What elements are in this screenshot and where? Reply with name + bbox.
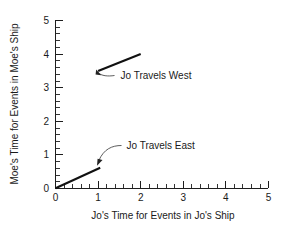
y-axis-major-ticks	[56, 21, 63, 189]
x-axis-major-ticks	[56, 181, 269, 188]
x-axis-minor-ticks	[64, 184, 260, 188]
x-tick-label-3: 3	[181, 192, 187, 203]
x-axis-title: Jo's Time for Events in Jo's Ship	[91, 210, 235, 221]
annotation-label-jo-travels-west: Jo Travels West	[121, 70, 192, 81]
chart-container: 0 1 2 3 4 5 0 1 2 3 4 5 Jo Travels West …	[0, 0, 287, 229]
x-tick-label-4: 4	[223, 192, 229, 203]
x-tick-label-1: 1	[95, 192, 101, 203]
x-tick-label-2: 2	[138, 192, 144, 203]
y-tick-label-0: 0	[43, 183, 49, 194]
chart-plot-area: 0 1 2 3 4 5 0 1 2 3 4 5 Jo Travels West …	[0, 0, 287, 229]
y-tick-label-3: 3	[43, 82, 49, 93]
data-line-jo-travels-west	[98, 54, 141, 71]
y-tick-label-1: 1	[43, 149, 49, 160]
y-axis-title: Moe's Time for Events in Moe's Ship	[9, 23, 20, 185]
x-tick-label-0: 0	[53, 192, 59, 203]
data-line-jo-travels-east	[56, 168, 101, 189]
annotation-arrow-jo-travels-east	[97, 146, 122, 166]
y-tick-label-5: 5	[43, 15, 49, 26]
y-axis-minor-ticks	[56, 27, 60, 182]
x-tick-label-5: 5	[266, 192, 272, 203]
y-tick-label-2: 2	[43, 116, 49, 127]
y-tick-label-4: 4	[43, 49, 49, 60]
annotation-label-jo-travels-east: Jo Travels East	[127, 140, 196, 151]
